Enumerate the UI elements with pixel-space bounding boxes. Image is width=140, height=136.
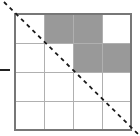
grid-cell-r2-c3 [73, 43, 102, 72]
grid-cell-r4-c2 [44, 101, 73, 130]
grid-cell-r3-c3 [73, 72, 102, 101]
grid-cell-r1-c4 [102, 14, 131, 43]
grid-cell-r1-c3 [73, 14, 102, 43]
grid-cell-r2-c4 [102, 43, 131, 72]
grid-cell-r3-c4 [102, 72, 131, 101]
figure-container [0, 0, 140, 136]
grid-cell-r3-c1 [15, 72, 44, 101]
grid-cell-r1-c1 [15, 14, 44, 43]
grid-cell-r2-c1 [15, 43, 44, 72]
grid-cell-r4-c3 [73, 101, 102, 130]
grid-cell-r4-c4 [102, 101, 131, 130]
grid-diagram [0, 0, 140, 136]
grid-cell-r4-c1 [15, 101, 44, 130]
grid-cell-r3-c2 [44, 72, 73, 101]
grid-cell-r2-c2 [44, 43, 73, 72]
grid-cell-r1-c2 [44, 14, 73, 43]
